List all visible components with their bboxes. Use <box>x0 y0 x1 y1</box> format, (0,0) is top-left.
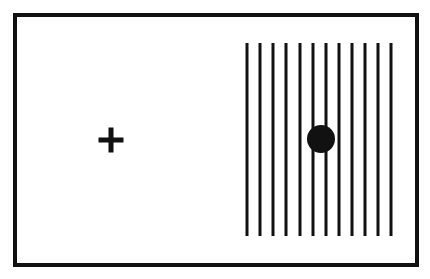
grating-line <box>351 43 354 236</box>
grating-line <box>272 43 275 236</box>
grating-line <box>338 43 341 236</box>
grating-line <box>299 43 302 236</box>
target-dot <box>307 125 335 153</box>
grating-line <box>246 43 249 236</box>
grating-line <box>285 43 288 236</box>
cross-vertical-bar <box>109 128 114 153</box>
fixation-cross-icon <box>99 128 124 153</box>
stimulus-canvas <box>0 0 430 279</box>
grating-line <box>377 43 380 236</box>
target-dot-circle <box>307 125 335 153</box>
grating-line <box>364 43 367 236</box>
grating-line <box>390 43 393 236</box>
grating-line <box>259 43 262 236</box>
stimulus-display <box>0 0 430 279</box>
